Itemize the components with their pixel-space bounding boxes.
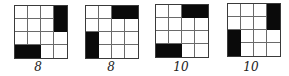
- vertical-black-block: [228, 30, 241, 56]
- vertical-black-block: [86, 32, 99, 58]
- grid-cell: [99, 32, 112, 45]
- grid-cell: [41, 32, 54, 45]
- grid-cell: [156, 5, 169, 18]
- grid-cell: [254, 43, 267, 56]
- horizontal-black-block: [182, 5, 208, 18]
- grid-cell: [112, 19, 125, 32]
- grid-cell: [41, 6, 54, 19]
- panel-3: 10: [145, 0, 217, 76]
- grid-cell: [54, 32, 67, 45]
- grid-cell: [254, 30, 267, 43]
- grid-cell: [156, 18, 169, 31]
- grid-cell: [195, 18, 208, 31]
- panel-1: 8: [2, 0, 74, 76]
- grid-cell: [41, 45, 54, 58]
- grid-cell: [15, 19, 28, 32]
- grid-cell: [241, 4, 254, 17]
- grid-cell: [54, 45, 67, 58]
- grid-cell: [28, 19, 41, 32]
- grid-cell: [28, 32, 41, 45]
- grid-cell: [241, 43, 254, 56]
- grid-cell: [28, 6, 41, 19]
- grid-cell: [228, 17, 241, 30]
- grid-cell: [169, 18, 182, 31]
- grid-cell: [182, 18, 195, 31]
- grid-cell: [125, 32, 138, 45]
- grid-cell: [112, 32, 125, 45]
- grid-cell: [195, 44, 208, 57]
- grid-cell: [15, 32, 28, 45]
- grid-cell: [241, 17, 254, 30]
- grid-cell: [169, 31, 182, 44]
- grid-cell: [267, 30, 280, 43]
- panel-label: 10: [215, 60, 287, 74]
- grid-cell: [228, 4, 241, 17]
- grid-cell: [125, 19, 138, 32]
- grid-cell: [99, 45, 112, 58]
- grid-cell: [156, 31, 169, 44]
- grid-cell: [99, 6, 112, 19]
- grid-cell: [86, 19, 99, 32]
- grid-cell: [125, 45, 138, 58]
- panel-label: 8: [2, 60, 74, 74]
- vertical-black-block: [54, 6, 67, 32]
- horizontal-black-block: [112, 6, 138, 19]
- grid-cell: [195, 31, 208, 44]
- grid-cell: [182, 44, 195, 57]
- horizontal-black-block: [156, 44, 182, 57]
- grid-cell: [254, 4, 267, 17]
- vertical-black-block: [267, 4, 280, 30]
- panel-2: 8: [75, 0, 147, 76]
- grid-cell: [254, 17, 267, 30]
- grid-cell: [112, 45, 125, 58]
- grid-cell: [182, 31, 195, 44]
- panel-4: 10: [215, 0, 287, 76]
- grid-cell: [99, 19, 112, 32]
- panel-label: 10: [145, 60, 217, 74]
- horizontal-black-block: [15, 45, 41, 58]
- grid-cell: [86, 6, 99, 19]
- grid-cell: [169, 5, 182, 18]
- grid-cell: [15, 6, 28, 19]
- grid-cell: [241, 30, 254, 43]
- panel-label: 8: [75, 60, 147, 74]
- grid-cell: [267, 43, 280, 56]
- grid-cell: [41, 19, 54, 32]
